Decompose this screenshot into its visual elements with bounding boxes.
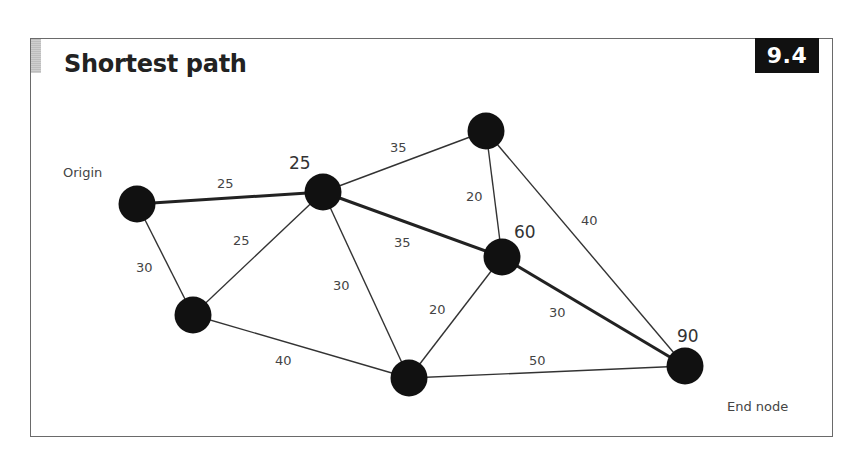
weight-origin-bottomleft: 30 [136,260,153,275]
weight-n60-bottom: 20 [429,302,446,317]
weight-bottom-end: 50 [529,353,546,368]
weight-top-end: 40 [581,213,598,228]
edge-bottom-end [409,366,685,378]
node-bottom [391,360,428,397]
edges [137,131,685,378]
origin-label: Origin [63,165,102,180]
weight-n25-n60: 35 [394,235,411,250]
edge-top-n60 [486,131,502,257]
weight-bottomleft-bottom: 40 [275,353,292,368]
edge-bottomleft-n25 [193,192,323,315]
node-end [667,348,704,385]
end-node-label: End node [727,399,788,414]
node-top [468,113,505,150]
nodes [119,113,704,397]
distance-n60: 60 [514,222,536,242]
distance-n25: 25 [289,153,311,173]
distance-end: 90 [677,326,699,346]
weight-origin-n25: 25 [217,176,234,191]
weight-n25-top: 35 [390,140,407,155]
edge-weight-labels: 25 30 25 35 35 30 20 40 20 30 40 50 [136,140,598,368]
weight-n25-bottom: 30 [333,278,350,293]
shortest-path-graph: 25 30 25 35 35 30 20 40 20 30 40 50 25 6… [0,0,846,469]
weight-bottomleft-n25: 25 [233,233,250,248]
edge-origin-n25 [137,192,323,204]
node-bottom-left [175,297,212,334]
edge-bottomleft-bottom [193,315,409,378]
node-n60 [484,239,521,276]
edge-n60-bottom [409,257,502,378]
edge-n60-end [502,257,685,366]
node-origin [119,186,156,223]
node-n25 [305,174,342,211]
weight-top-n60: 20 [466,189,483,204]
weight-n60-end: 30 [549,305,566,320]
